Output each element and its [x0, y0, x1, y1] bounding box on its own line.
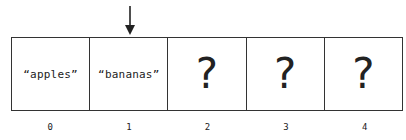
- index-label: 0: [11, 122, 90, 132]
- index-label: 2: [168, 122, 247, 132]
- index-label: 1: [90, 122, 169, 132]
- question-mark-icon: ?: [196, 53, 218, 95]
- question-mark-icon: ?: [274, 53, 296, 95]
- index-label: 3: [247, 122, 326, 132]
- array-cell-2: ?: [168, 38, 246, 110]
- index-label: 4: [325, 122, 404, 132]
- cell-value: “bananas”: [98, 68, 159, 81]
- array-cell-4: ?: [325, 38, 402, 110]
- index-labels: 0 1 2 3 4: [11, 122, 404, 132]
- array: “apples” “bananas” ? ? ?: [11, 37, 403, 111]
- question-mark-icon: ?: [352, 53, 374, 95]
- array-cell-0: “apples”: [12, 38, 90, 110]
- array-cell-1: “bananas”: [90, 38, 168, 110]
- down-arrow-icon: [124, 6, 136, 36]
- cell-value: “apples”: [23, 68, 78, 81]
- array-cell-3: ?: [247, 38, 325, 110]
